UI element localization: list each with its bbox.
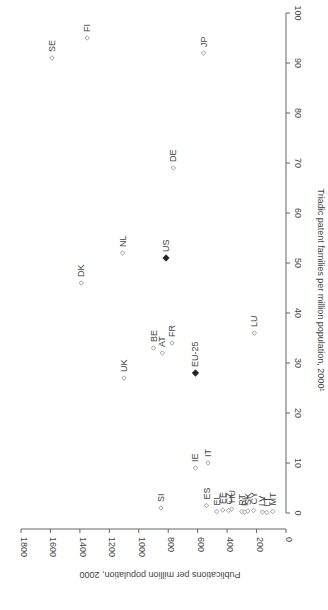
data-points: SEFIJPDEDKNLUSUKBEATFREU-25LUIEITSIESHUE… [47, 24, 278, 515]
point-marker-de [171, 166, 175, 170]
point-label-fi: FI [82, 24, 92, 32]
point-marker-se [50, 56, 54, 60]
x-tick-label: 100 [293, 5, 303, 20]
point-marker-eu-25 [192, 370, 198, 376]
point-marker-dk [79, 281, 83, 285]
y-tick-label: 1600 [48, 537, 58, 557]
point-label-dk: DK [76, 264, 86, 277]
y-tick-label: 1000 [137, 537, 147, 557]
y-tick-label: 400 [225, 537, 235, 552]
point-label-ie: IE [190, 453, 200, 462]
x-tick-label: 80 [293, 108, 303, 118]
y-axis-title: Publications per million population, 200… [79, 570, 240, 580]
point-label-at: AT [157, 336, 167, 347]
point-label-eu-25: EU-25 [190, 341, 200, 367]
x-tick-label: 50 [293, 258, 303, 268]
y-tick-label: 1800 [19, 537, 29, 557]
y-tick-label: 800 [166, 537, 176, 552]
point-marker-lu [252, 331, 256, 335]
point-label-si: SI [156, 493, 166, 502]
y-tick-label: 1400 [78, 537, 88, 557]
point-marker-fr [170, 341, 174, 345]
point-marker-lt [265, 510, 269, 514]
point-label-us: US [161, 239, 171, 252]
point-label-se: SE [47, 40, 57, 52]
point-marker-be [151, 346, 155, 350]
y-tick-label: 0 [284, 537, 294, 542]
point-marker-fi [85, 36, 89, 40]
x-tick-label: 90 [293, 58, 303, 68]
point-marker-es [204, 503, 208, 507]
point-marker-us [163, 255, 169, 261]
point-label-it: IT [203, 448, 213, 457]
x-axis-title: Triadic patent families per million popu… [316, 189, 326, 392]
scatter-chart: 0102030405060708090100020040060080010001… [0, 0, 328, 610]
y-tick-label: 200 [255, 537, 265, 552]
point-marker-lv [260, 510, 264, 514]
point-label-es: ES [202, 487, 212, 499]
point-marker-nl [120, 251, 124, 255]
point-marker-ee [220, 508, 224, 512]
point-marker-jp [201, 51, 205, 55]
point-label-cz: CZ [224, 492, 234, 504]
point-label-fr: FR [167, 325, 177, 337]
x-tick-label: 20 [293, 408, 303, 418]
point-label-jp: JP [199, 36, 209, 47]
point-label-de: DE [168, 149, 178, 162]
x-tick-label: 10 [293, 458, 303, 468]
point-label-uk: UK [119, 359, 129, 372]
x-tick-label: 0 [293, 510, 303, 515]
point-marker-si [159, 506, 163, 510]
x-tick-label: 70 [293, 158, 303, 168]
point-label-nl: NL [118, 235, 128, 247]
point-label-lu: LU [249, 315, 259, 327]
axes: 0102030405060708090100020040060080010001… [19, 5, 303, 557]
point-label-el: EL [212, 494, 222, 505]
point-marker-mt [271, 509, 275, 513]
x-tick-label: 40 [293, 308, 303, 318]
point-marker-it [206, 461, 210, 465]
point-marker-uk [122, 376, 126, 380]
point-marker-cy [251, 508, 255, 512]
x-tick-label: 60 [293, 208, 303, 218]
point-marker-ie [193, 466, 197, 470]
point-label-mt: MT [268, 492, 278, 505]
y-tick-label: 600 [196, 537, 206, 552]
y-tick-label: 1200 [107, 537, 117, 557]
point-marker-at [160, 351, 164, 355]
x-tick-label: 30 [293, 358, 303, 368]
point-marker-el [215, 509, 219, 513]
